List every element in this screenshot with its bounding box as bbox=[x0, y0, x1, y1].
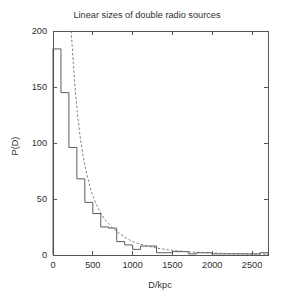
chart-figure: Linear sizes of double radio sources 050… bbox=[0, 0, 286, 299]
y-tick-label: 50 bbox=[37, 194, 47, 204]
plot-border bbox=[53, 31, 268, 255]
y-tick-label: 100 bbox=[32, 138, 47, 148]
x-tick-label: 0 bbox=[50, 260, 55, 270]
x-tick-label: 1000 bbox=[122, 260, 142, 270]
y-axis-ticks: 050100150200 bbox=[32, 26, 268, 260]
chart-title: Linear sizes of double radio sources bbox=[73, 10, 220, 20]
y-tick-label: 150 bbox=[32, 82, 47, 92]
linear-sizes-plot: Linear sizes of double radio sources 050… bbox=[0, 0, 286, 299]
x-tick-label: 1500 bbox=[162, 260, 182, 270]
x-axis-label: D/kpc bbox=[148, 280, 172, 290]
y-tick-label: 0 bbox=[42, 250, 47, 260]
y-tick-label: 200 bbox=[32, 26, 47, 36]
plot-frame bbox=[53, 31, 268, 255]
y-axis-label: P(D) bbox=[10, 137, 20, 156]
x-tick-label: 2500 bbox=[242, 260, 262, 270]
x-tick-label: 2000 bbox=[202, 260, 222, 270]
histogram-step-series bbox=[53, 49, 268, 255]
x-tick-label: 500 bbox=[85, 260, 100, 270]
